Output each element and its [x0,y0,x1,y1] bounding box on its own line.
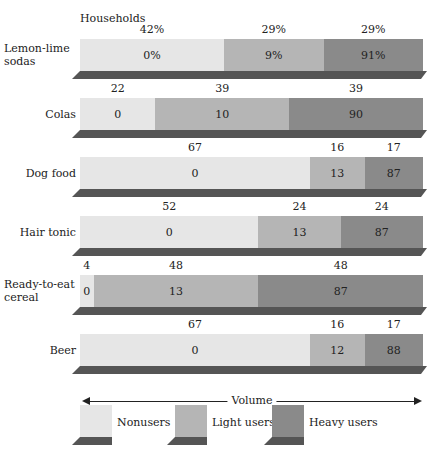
bar-segment-light-users: 10 [155,98,289,130]
volume-value: 12 [330,344,344,357]
volume-value: 87 [375,226,389,239]
bar-row: 0%9%91% [80,39,423,71]
households-value: 16 [330,141,344,154]
households-value: 17 [387,141,401,154]
row-label-line: cereal [4,291,76,304]
bar-row: 01387 [80,216,423,248]
row-label-line: Lemon-lime [4,42,76,55]
row-label-line: sodas [4,55,76,68]
households-value: 17 [387,318,401,331]
volume-value: 10 [215,108,229,121]
volume-value: 0 [166,226,173,239]
legend-swatch-heavy-users [272,405,304,437]
bar-base-shadow [80,307,421,315]
legend-swatch-base [272,437,304,445]
row-label-line: Colas [4,108,76,121]
bar-segment-heavy-users: 88 [365,334,423,366]
bar-segment-light-users: 13 [310,157,365,189]
bar-segment-nonusers: 0 [80,334,310,366]
households-value: 24 [375,200,389,213]
households-value: 22 [111,82,125,95]
bar-segment-nonusers: 0% [80,39,224,71]
legend-swatch-nonusers [80,405,112,437]
volume-value: 0 [83,285,90,298]
volume-value: 9% [265,49,282,62]
volume-value: 13 [293,226,307,239]
bar-row: 01090 [80,98,423,130]
households-value: 29% [262,23,286,36]
row-label-line: Dog food [4,167,76,180]
households-value: 24 [293,200,307,213]
households-value: 16 [330,318,344,331]
row-label: Colas [4,108,76,121]
bar-segment-light-users: 13 [94,275,259,307]
households-value: 39 [349,82,363,95]
bar-base-shadow [80,366,421,374]
bar-segment-nonusers: 0 [80,216,258,248]
bar-segment-light-users: 9% [224,39,323,71]
households-value: 42% [140,23,164,36]
legend-label: Light users [212,416,275,429]
bar-segment-heavy-users: 87 [258,275,423,307]
arrow-left-icon [82,397,90,405]
bar-base-shadow [80,189,421,197]
volume-value: 13 [169,285,183,298]
row-label: Hair tonic [4,226,76,239]
bar-segment-heavy-users: 91% [324,39,423,71]
households-value: 48 [334,259,348,272]
households-value: 4 [83,259,90,272]
bar-base-shadow [80,71,421,79]
volume-axis: Volume [82,394,422,408]
volume-value: 0 [114,108,121,121]
row-label: Lemon-limesodas [4,42,76,68]
households-value: 39 [215,82,229,95]
bar-segment-heavy-users: 87 [341,216,423,248]
arrow-right-icon [414,397,422,405]
households-header: Households [80,12,145,25]
bar-segment-nonusers: 0 [80,157,310,189]
households-value: 52 [162,200,176,213]
volume-value: 0 [191,344,198,357]
row-label: Ready-to-eatcereal [4,278,76,304]
bar-segment-nonusers: 0 [80,98,155,130]
volume-value: 90 [349,108,363,121]
row-label: Dog food [4,167,76,180]
bar-row: 01387 [80,157,423,189]
households-value: 67 [188,141,202,154]
bar-segment-heavy-users: 87 [365,157,423,189]
households-value: 48 [169,259,183,272]
row-label: Beer [4,344,76,357]
households-value: 67 [188,318,202,331]
legend-swatch-base [80,437,112,445]
volume-value: 88 [387,344,401,357]
volume-label: Volume [227,394,276,407]
households-value: 29% [361,23,385,36]
bar-base-shadow [80,248,421,256]
legend-label: Heavy users [309,416,378,429]
volume-value: 0 [191,167,198,180]
volume-value: 0% [143,49,160,62]
row-label-line: Ready-to-eat [4,278,76,291]
bar-row: 01288 [80,334,423,366]
volume-value: 13 [330,167,344,180]
row-label-line: Beer [4,344,76,357]
bar-segment-light-users: 12 [310,334,365,366]
bar-segment-heavy-users: 90 [289,98,423,130]
row-label-line: Hair tonic [4,226,76,239]
legend-swatch-base [175,437,207,445]
legend-label: Nonusers [117,416,170,429]
bar-row: 01387 [80,275,423,307]
legend-swatch-light-users [175,405,207,437]
volume-value: 87 [334,285,348,298]
bar-segment-nonusers: 0 [80,275,94,307]
bar-base-shadow [80,130,421,138]
bar-segment-light-users: 13 [258,216,340,248]
volume-value: 91% [361,49,385,62]
volume-value: 87 [387,167,401,180]
